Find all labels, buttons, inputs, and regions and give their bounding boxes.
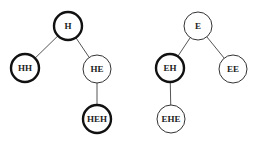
node-he: HE — [83, 55, 111, 83]
node-label: EE — [227, 64, 239, 74]
node-label: EHE — [161, 114, 180, 124]
edges-layer — [35, 36, 224, 105]
node-label: HE — [90, 64, 103, 74]
node-label: HEH — [87, 114, 107, 124]
tree-diagram: HHHHEHEHEEHEEEHE — [0, 0, 261, 145]
node-ee: EE — [219, 55, 247, 83]
node-heh: HEH — [83, 105, 111, 133]
node-hh: HH — [11, 54, 39, 82]
node-eh: EH — [156, 54, 184, 82]
node-h: H — [54, 12, 82, 40]
node-ehe: EHE — [157, 105, 185, 133]
edge-h-hh — [35, 36, 58, 58]
node-e: E — [184, 12, 212, 40]
node-label: E — [195, 21, 201, 31]
edge-e-eh — [178, 38, 190, 57]
nodes-layer: HHHHEHEHEEHEEEHE — [11, 12, 247, 133]
edge-e-ee — [207, 37, 224, 58]
node-label: HH — [18, 63, 32, 73]
edge-h-he — [76, 38, 89, 58]
node-label: H — [64, 21, 71, 31]
node-label: EH — [163, 63, 176, 73]
